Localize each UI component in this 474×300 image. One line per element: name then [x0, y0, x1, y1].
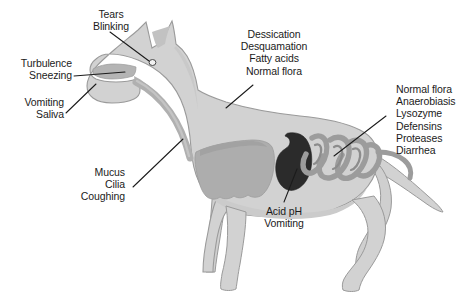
- annotation-line: Dessication: [215, 28, 333, 40]
- annotation-line: Vomiting: [253, 217, 315, 229]
- nasal-cavity-organ: [93, 64, 136, 79]
- leader-line-mucus-cilia-coughing: [133, 139, 183, 187]
- annotation-skin-defenses: Dessication Desquamation Fatty acids Nor…: [215, 28, 333, 77]
- annotation-line: Desquamation: [215, 40, 333, 52]
- annotation-line: Defensins: [396, 120, 474, 132]
- annotation-line: Vomiting: [0, 96, 64, 108]
- annotation-line: Normal flora: [396, 83, 474, 95]
- annotation-line: Lysozyme: [396, 107, 474, 119]
- annotation-line: Cilia: [40, 178, 125, 190]
- annotation-line: Acid pH: [253, 205, 315, 217]
- annotation-line: Blinking: [78, 20, 144, 32]
- annotation-line: Coughing: [40, 190, 125, 202]
- leader-line-skin-defenses: [226, 85, 253, 108]
- annotation-line: Fatty acids: [215, 52, 333, 64]
- annotation-line: Normal flora: [215, 65, 333, 77]
- annotation-intestinal-defenses: Normal flora Anaerobiasis Lysozyme Defen…: [396, 83, 474, 156]
- leader-line-vomiting-saliva: [66, 84, 96, 113]
- annotation-line: Saliva: [0, 108, 64, 120]
- annotation-line: Diarrhea: [396, 144, 474, 156]
- annotation-line: Proteases: [396, 132, 474, 144]
- annotation-vomiting-saliva: Vomiting Saliva: [0, 96, 64, 120]
- annotation-line: Mucus: [40, 166, 125, 178]
- eye-organ: [149, 60, 156, 66]
- annotation-line: Sneezing: [0, 69, 72, 81]
- host-defenses-diagram: Tears Blinking Turbulence Sneezing Vomit…: [0, 0, 474, 300]
- annotation-mucus-cilia-coughing: Mucus Cilia Coughing: [40, 166, 125, 203]
- annotation-turbulence-sneezing: Turbulence Sneezing: [0, 57, 72, 81]
- annotation-line: Tears: [78, 8, 144, 20]
- annotation-acid-ph-vomiting: Acid pH Vomiting: [253, 205, 315, 229]
- dog-front-leg-near: [221, 206, 246, 291]
- annotation-tears-blinking: Tears Blinking: [78, 8, 144, 32]
- annotation-line: Anaerobiasis: [396, 95, 474, 107]
- annotation-line: Turbulence: [0, 57, 72, 69]
